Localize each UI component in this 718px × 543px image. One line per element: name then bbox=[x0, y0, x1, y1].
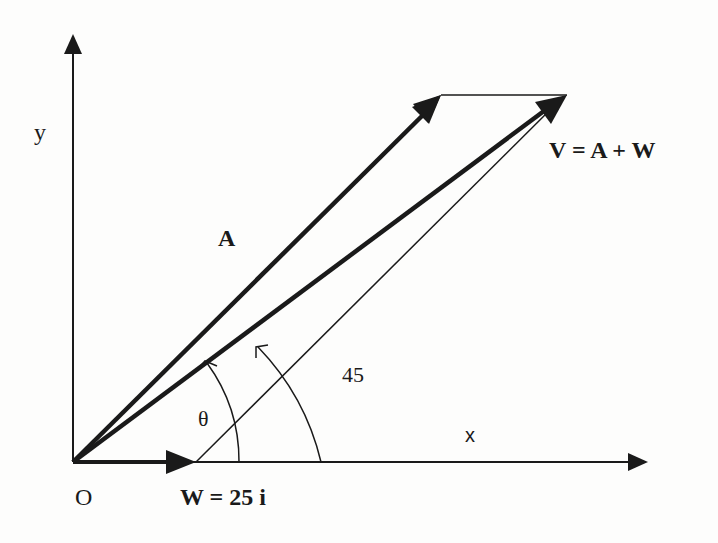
x-axis-label: x bbox=[465, 425, 475, 445]
vector-a bbox=[73, 95, 441, 462]
parallelogram-side-a bbox=[196, 100, 560, 462]
origin-label: O bbox=[75, 485, 92, 509]
angle-45-label: 45 bbox=[342, 364, 364, 386]
vector-diagram bbox=[0, 0, 718, 543]
x-axis-arrow-icon bbox=[628, 453, 648, 471]
vector-w bbox=[73, 450, 196, 474]
angle-45-arc bbox=[256, 345, 321, 462]
wind-vector-label: W = 25 i bbox=[180, 485, 266, 509]
y-axis-arrow-icon bbox=[64, 34, 82, 54]
resultant-label: V = A + W bbox=[549, 138, 656, 162]
vector-w-arrow-icon bbox=[166, 450, 196, 474]
y-axis-label: y bbox=[34, 120, 46, 144]
theta-label: θ bbox=[198, 408, 209, 430]
vector-a-label: A bbox=[218, 226, 235, 250]
vector-v bbox=[73, 95, 567, 462]
y-axis bbox=[64, 34, 82, 462]
